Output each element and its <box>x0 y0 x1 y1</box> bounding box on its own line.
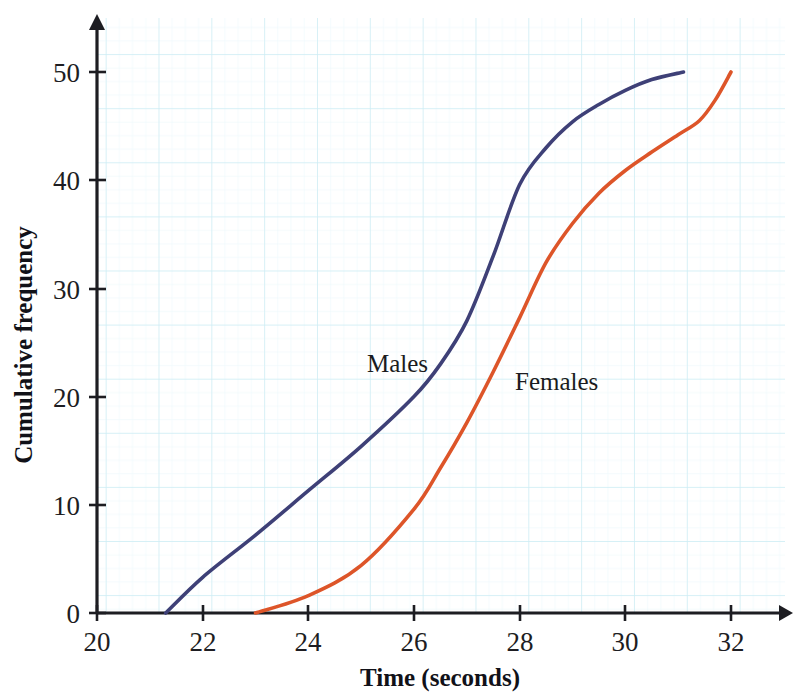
x-axis: 20 22 24 26 28 30 32 Time (seconds) <box>84 605 794 692</box>
series-annotation-males: Males <box>367 350 428 377</box>
y-tick-label-10: 10 <box>53 491 80 521</box>
x-tick-label-24: 24 <box>295 627 323 657</box>
x-tick-label-26: 26 <box>401 627 428 657</box>
y-tick-label-30: 30 <box>53 275 80 305</box>
y-axis-title: Cumulative frequency <box>10 226 37 464</box>
y-axis: 0 10 20 30 40 50 Cumulative frequency <box>10 14 106 629</box>
y-tick-label-20: 20 <box>53 383 80 413</box>
x-tick-label-22: 22 <box>190 627 217 657</box>
x-tick-label-20: 20 <box>84 627 111 657</box>
y-tick-label-0: 0 <box>67 599 81 629</box>
x-tick-label-28: 28 <box>507 627 534 657</box>
y-tick-label-40: 40 <box>53 166 80 196</box>
x-tick-label-30: 30 <box>612 627 639 657</box>
series-annotation-females: Females <box>515 368 598 395</box>
grid-background <box>97 18 785 613</box>
y-tick-label-50: 50 <box>53 58 80 88</box>
cumulative-frequency-chart: Cumulative frequency diagram of times fo… <box>0 0 796 693</box>
x-tick-label-32: 32 <box>718 627 745 657</box>
chart-plot-area: 20 22 24 26 28 30 32 Time (seconds) 0 10… <box>0 0 796 693</box>
x-axis-arrow-icon <box>779 605 793 621</box>
x-axis-title: Time (seconds) <box>360 664 520 692</box>
